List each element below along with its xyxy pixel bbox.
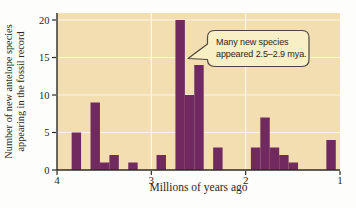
y-tick-label-0: 0 xyxy=(44,165,49,176)
bar-1.5-mya xyxy=(289,163,298,171)
bar-2.7-mya xyxy=(175,20,184,170)
chart-canvas: 432105101520 Millions of years ago Numbe… xyxy=(0,0,356,208)
annotation-line2: appeared 2.5–2.9 mya. xyxy=(216,49,306,59)
bar-2.5-mya xyxy=(194,65,203,170)
y-tick-label-20: 20 xyxy=(39,15,50,26)
y-axis-title-line2: appearing in the fossil record xyxy=(15,31,26,152)
bar-2.6-mya xyxy=(185,95,194,170)
bar-1.7-mya xyxy=(270,148,279,171)
bar-1.1-mya xyxy=(326,140,335,170)
y-tick-label-15: 15 xyxy=(39,52,50,63)
x-tick-label-1: 1 xyxy=(337,174,343,186)
bar-3.4-mya xyxy=(109,155,118,170)
bar-1.8-mya xyxy=(260,118,269,171)
bar-3.5-mya xyxy=(100,163,109,171)
bar-1.6-mya xyxy=(279,155,288,170)
bar-3.6-mya xyxy=(91,103,100,171)
antelope-speciation-figure: 432105101520 Millions of years ago Numbe… xyxy=(0,0,356,208)
x-tick-label-4: 4 xyxy=(54,174,60,186)
x-axis-title: Millions of years ago xyxy=(149,181,247,194)
bar-3.2-mya xyxy=(128,163,137,171)
bar-2.3-mya xyxy=(213,148,222,171)
bar-1.9-mya xyxy=(251,148,260,171)
bar-3.8-mya xyxy=(72,133,81,171)
y-tick-label-10: 10 xyxy=(39,90,50,101)
bar-2.9-mya xyxy=(157,155,166,170)
y-axis-title-line1: Number of new antelope species xyxy=(3,24,14,158)
annotation-line1: Many new species xyxy=(216,37,289,47)
y-tick-label-5: 5 xyxy=(44,127,49,138)
